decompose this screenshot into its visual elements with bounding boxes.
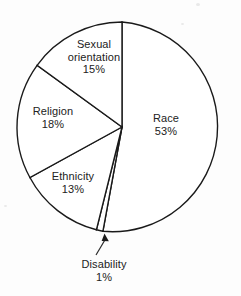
slice-label-ethnicity: Ethnicity 13%	[40, 170, 106, 195]
slice-label-disability-name: Disability	[81, 258, 126, 270]
slice-label-disability-pct: 1%	[58, 271, 150, 284]
slice-label-race: Race 53%	[138, 112, 194, 137]
slice-label-religion-name: Religion	[33, 105, 74, 117]
slice-label-sexual-orientation: Sexual orientation 15%	[56, 38, 132, 76]
slice-label-disability: Disability 1%	[58, 258, 150, 283]
disability-leader-line	[96, 239, 106, 255]
slice-label-race-name: Race	[153, 112, 179, 124]
slice-label-sexual-orientation-pct: 15%	[56, 63, 132, 76]
slice-label-religion-pct: 18%	[20, 118, 86, 131]
slice-label-sexual-orientation-name-line1: Sexual	[77, 38, 111, 50]
pie-chart-figure: Race 53% Sexual orientation 15% Religion…	[0, 0, 241, 296]
slice-label-ethnicity-name: Ethnicity	[52, 170, 94, 182]
slice-label-ethnicity-pct: 13%	[40, 183, 106, 196]
slice-label-sexual-orientation-name-line2: orientation	[56, 51, 132, 64]
disability-arrow-icon	[102, 234, 109, 242]
slice-label-religion: Religion 18%	[20, 105, 86, 130]
slice-label-race-pct: 53%	[138, 125, 194, 138]
